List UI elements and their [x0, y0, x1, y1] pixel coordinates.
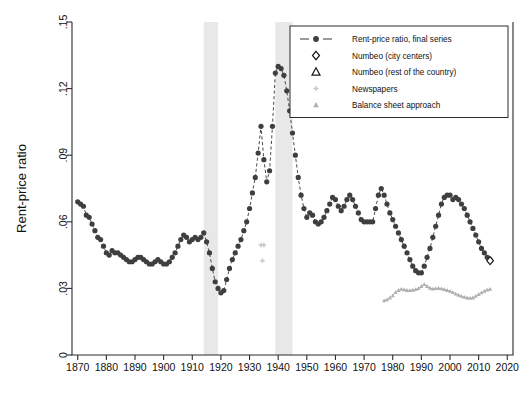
main-series-point: [256, 150, 261, 155]
series-balance-sheet-approach: [382, 282, 492, 302]
main-series-point: [427, 246, 432, 251]
main-series-point: [341, 204, 346, 209]
main-series-point: [89, 221, 94, 226]
main-series-point: [284, 88, 289, 93]
main-series-point: [470, 226, 475, 231]
legend-marker-circle-icon: [313, 36, 319, 42]
main-series-point: [273, 70, 278, 75]
main-series-point: [324, 208, 329, 213]
y-tick-label: .03: [57, 281, 69, 296]
main-series-point: [387, 210, 392, 215]
main-series-point: [373, 206, 378, 211]
x-tick-label: 1890: [123, 361, 147, 373]
main-series-point: [296, 175, 301, 180]
main-series-point: [221, 288, 226, 293]
y-tick-labels: 0.03.06.09.12.15: [57, 15, 72, 358]
main-series-point: [402, 244, 407, 249]
main-series-point: [459, 201, 464, 206]
main-series-point: [339, 208, 344, 213]
main-series-point: [87, 215, 92, 220]
main-series-point: [101, 244, 106, 249]
main-series-point: [264, 179, 269, 184]
newspaper-point: [261, 243, 266, 248]
main-series-point: [447, 193, 452, 198]
main-series-point: [107, 253, 112, 258]
main-series-point: [396, 230, 401, 235]
series-newspapers: [259, 243, 267, 263]
main-series-point: [370, 219, 375, 224]
main-series-point: [293, 153, 298, 158]
x-tick-label: 1960: [324, 361, 348, 373]
main-series-point: [81, 204, 86, 209]
main-series-point: [393, 224, 398, 229]
main-series-point: [213, 279, 218, 284]
main-series-point: [304, 215, 309, 220]
y-tick-label: .15: [57, 15, 69, 30]
y-tick-label: 0: [57, 352, 69, 358]
y-tick-label: .09: [57, 148, 69, 163]
main-series-point: [465, 213, 470, 218]
main-series-point: [230, 257, 235, 262]
main-series-point: [379, 186, 384, 191]
x-tick-label: 2020: [496, 361, 520, 373]
main-series-point: [247, 206, 252, 211]
main-series-point: [321, 215, 326, 220]
legend-label: Numbeo (rest of the country): [352, 68, 456, 77]
legend-label: Numbeo (city centers): [352, 52, 432, 61]
x-tick-label: 1980: [381, 361, 405, 373]
x-tick-labels: 1870188018901900191019201930194019501960…: [66, 355, 519, 373]
main-series-point: [198, 235, 203, 240]
main-series-point: [327, 201, 332, 206]
chart-legend: Rent-price ratio, final seriesNumbeo (ci…: [290, 26, 508, 118]
main-series-point: [319, 219, 324, 224]
main-series-point: [204, 239, 209, 244]
main-series-point: [356, 210, 361, 215]
main-series-point: [267, 168, 272, 173]
x-tick-label: 1970: [352, 361, 376, 373]
main-series-point: [270, 124, 275, 129]
main-series-point: [419, 270, 424, 275]
x-tick-label: 1900: [152, 361, 176, 373]
x-tick-label: 1870: [66, 361, 90, 373]
main-series-point: [382, 193, 387, 198]
main-series-point: [92, 228, 97, 233]
main-series-point: [261, 157, 266, 162]
main-series-point: [233, 250, 238, 255]
main-series-point: [430, 235, 435, 240]
main-series-point: [170, 255, 175, 260]
main-series-point: [224, 277, 229, 282]
main-series-point: [439, 201, 444, 206]
main-series-point: [278, 66, 283, 71]
main-series-point: [172, 250, 177, 255]
main-series-point: [353, 204, 358, 209]
main-series-point: [390, 217, 395, 222]
rent-price-ratio-chart: 0.03.06.09.12.15 18701880189019001910192…: [0, 0, 529, 394]
main-series-point: [301, 206, 306, 211]
main-series-point: [407, 257, 412, 262]
main-series-point: [178, 237, 183, 242]
main-series-point: [399, 237, 404, 242]
y-tick-label: .12: [57, 81, 69, 96]
y-tick-label: .06: [57, 214, 69, 229]
x-tick-label: 1920: [209, 361, 233, 373]
x-tick-label: 1990: [410, 361, 434, 373]
main-series-point: [184, 235, 189, 240]
main-series-point: [201, 230, 206, 235]
main-series-point: [290, 130, 295, 135]
main-series-point: [376, 193, 381, 198]
main-series-point: [167, 259, 172, 264]
legend-label: Rent-price ratio, final series: [352, 35, 452, 44]
shaded-war-bands: [204, 22, 293, 355]
main-series-point: [210, 266, 215, 271]
main-series-point: [258, 124, 263, 129]
x-tick-label: 1880: [95, 361, 119, 373]
main-series-point: [404, 250, 409, 255]
chart-figure: 0.03.06.09.12.15 18701880189019001910192…: [0, 0, 529, 394]
x-tick-label: 2010: [467, 361, 491, 373]
main-series-point: [433, 224, 438, 229]
legend-label: Newspapers: [352, 85, 398, 94]
main-series-point: [281, 73, 286, 78]
band-world-war-one: [204, 22, 218, 355]
x-tick-label: 1940: [267, 361, 291, 373]
main-series-point: [235, 244, 240, 249]
